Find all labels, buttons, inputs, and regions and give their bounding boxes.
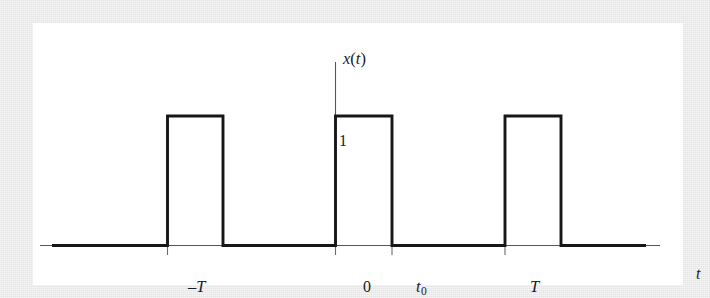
y-axis-label: x(t) (343, 51, 366, 68)
figure-panel: x(t) 1 t –T 0 t0 T (33, 23, 683, 285)
x-tick-label-t0-base: t (416, 277, 421, 296)
pulse-train-waveform (52, 116, 646, 246)
x-tick-label-zero: 0 (363, 279, 371, 295)
x-tick-label-t0: t0 (416, 279, 426, 296)
x-tick-label-t0-subscript: 0 (421, 285, 427, 297)
x-tick-label-T: T (530, 279, 539, 296)
x-axis-label: t (696, 266, 700, 282)
x-tick-label-neg-T: –T (188, 279, 205, 296)
amplitude-label: 1 (339, 133, 347, 149)
y-axis-paren-close: ) (360, 49, 366, 68)
